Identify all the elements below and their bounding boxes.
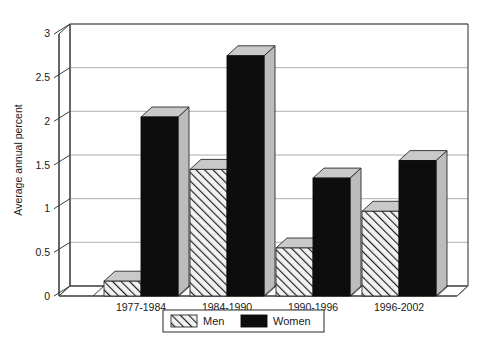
y-tick-label-2: 2 (44, 115, 50, 127)
bar-women-1984-1990 (227, 46, 275, 296)
legend-label-men: Men (203, 315, 224, 327)
y-tick-label-1: 1 (44, 202, 50, 214)
legend-swatch-women (241, 315, 267, 327)
y-tick-label-0p5: 0.5 (35, 246, 50, 258)
y-tick-labels: 3 2.5 2 1.5 1 0.5 0 (35, 27, 50, 302)
legend-item-women[interactable]: Women (241, 315, 311, 327)
y-axis-title: Average annual percent (12, 104, 24, 215)
y-tick-label-0: 0 (44, 290, 50, 302)
legend-label-women: Women (273, 315, 311, 327)
bar-women-1996-2002 (399, 151, 447, 296)
y-tick-label-2p5: 2.5 (35, 71, 50, 83)
x-tick-label-1: 1977-1984 (116, 301, 166, 313)
chart-svg: 3 2.5 2 1.5 1 0.5 0 Average annual perce… (0, 0, 480, 354)
legend: Men Women (163, 310, 324, 332)
y-tick-label-1p5: 1.5 (35, 159, 50, 171)
bar-chart-figure: 3 2.5 2 1.5 1 0.5 0 Average annual perce… (0, 0, 480, 354)
x-tick-label-4: 1996-2002 (374, 301, 424, 313)
bar-women-1990-1996 (313, 168, 361, 296)
bar-women-1977-1984 (141, 107, 189, 296)
legend-swatch-men (171, 315, 197, 327)
y-tick-label-3: 3 (44, 27, 50, 39)
